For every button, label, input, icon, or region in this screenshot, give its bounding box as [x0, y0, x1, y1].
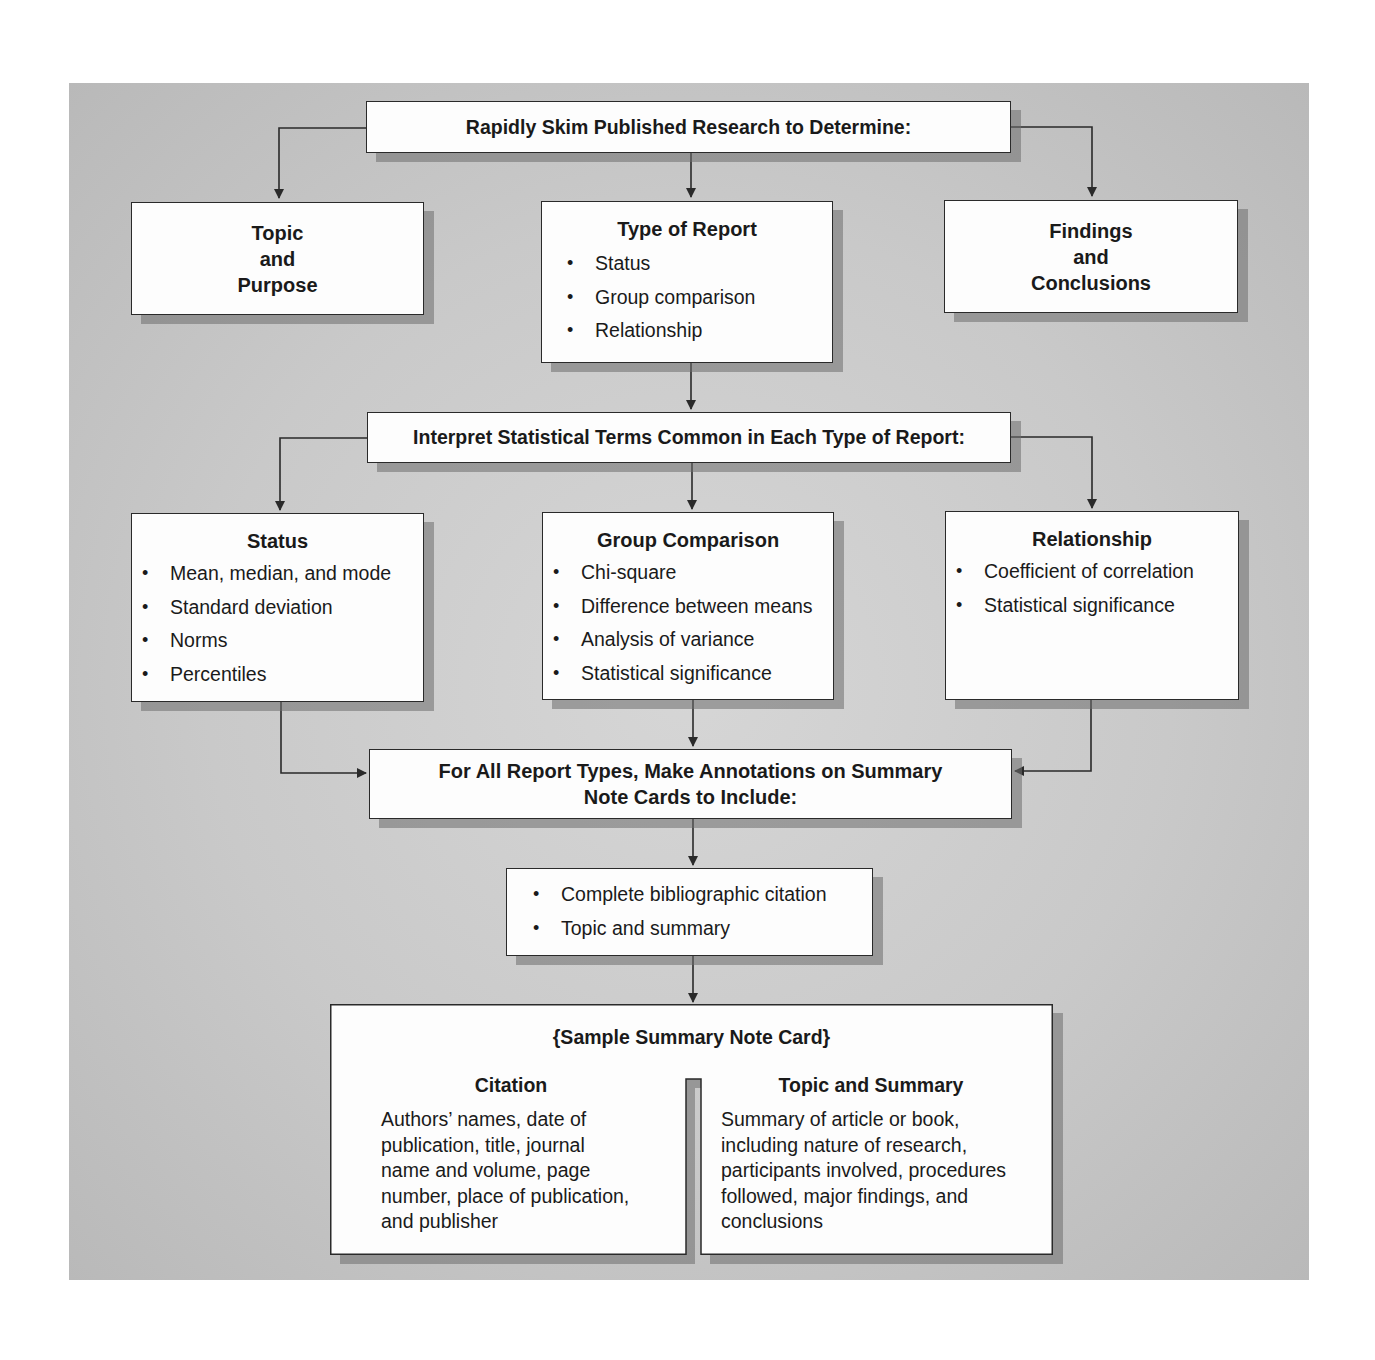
annotations-line-2: Note Cards to Include: — [584, 784, 797, 810]
list-item: Status — [557, 247, 832, 281]
skim-research-label: Rapidly Skim Published Research to Deter… — [466, 116, 911, 139]
list-item: Norms — [132, 624, 423, 658]
topic-purpose-line-1: Topic — [252, 220, 304, 246]
citation-line: number, place of publication, — [381, 1184, 629, 1210]
annotations-line-1: For All Report Types, Make Annotations o… — [439, 758, 943, 784]
topic-summary-line: participants involved, procedures — [721, 1158, 1006, 1184]
group-comparison-list: Chi-square Difference between means Anal… — [543, 556, 833, 690]
topic-summary-line: conclusions — [721, 1209, 1006, 1235]
status-list: Mean, median, and mode Standard deviatio… — [132, 557, 423, 691]
topic-purpose-line-3: Purpose — [237, 272, 317, 298]
topic-summary-heading: Topic and Summary — [701, 1074, 1041, 1097]
topic-summary-line: followed, major findings, and — [721, 1184, 1006, 1210]
type-of-report-title: Type of Report — [542, 216, 832, 242]
topic-summary-text: Summary of article or book, including na… — [721, 1107, 1006, 1235]
citation-heading: Citation — [330, 1074, 692, 1097]
include-list: Complete bibliographic citation Topic an… — [523, 878, 872, 945]
include-items-box: Complete bibliographic citation Topic an… — [506, 868, 873, 956]
type-of-report-list: Status Group comparison Relationship — [557, 247, 832, 348]
list-item: Difference between means — [543, 590, 833, 624]
list-item: Complete bibliographic citation — [523, 878, 872, 912]
citation-line: publication, title, journal — [381, 1133, 629, 1159]
list-item: Topic and summary — [523, 912, 872, 946]
topic-summary-line: including nature of research, — [721, 1133, 1006, 1159]
group-comparison-title: Group Comparison — [543, 527, 833, 553]
list-item: Statistical significance — [543, 657, 833, 691]
list-item: Statistical significance — [946, 589, 1238, 623]
citation-line: and publisher — [381, 1209, 629, 1235]
sample-note-card: {Sample Summary Note Card} Citation Auth… — [330, 1004, 1053, 1255]
topic-summary-line: Summary of article or book, — [721, 1107, 1006, 1133]
list-item: Relationship — [557, 314, 832, 348]
status-box: Status Mean, median, and mode Standard d… — [131, 513, 424, 702]
findings-line-3: Conclusions — [1031, 270, 1151, 296]
findings-conclusions-box: Findings and Conclusions — [944, 200, 1238, 313]
relationship-box: Relationship Coefficient of correlation … — [945, 511, 1239, 700]
findings-line-1: Findings — [1049, 218, 1132, 244]
annotations-box: For All Report Types, Make Annotations o… — [369, 749, 1012, 819]
list-item: Mean, median, and mode — [132, 557, 423, 591]
list-item: Chi-square — [543, 556, 833, 590]
relationship-title: Relationship — [946, 526, 1238, 552]
list-item: Coefficient of correlation — [946, 555, 1238, 589]
status-title: Status — [132, 528, 423, 554]
citation-text: Authors’ names, date of publication, tit… — [381, 1107, 629, 1235]
type-of-report-box: Type of Report Status Group comparison R… — [541, 201, 833, 363]
citation-line: name and volume, page — [381, 1158, 629, 1184]
group-comparison-box: Group Comparison Chi-square Difference b… — [542, 512, 834, 700]
relationship-list: Coefficient of correlation Statistical s… — [946, 555, 1238, 622]
list-item: Standard deviation — [132, 591, 423, 625]
list-item: Group comparison — [557, 281, 832, 315]
note-card-title: {Sample Summary Note Card} — [330, 1026, 1053, 1049]
citation-line: Authors’ names, date of — [381, 1107, 629, 1133]
list-item: Percentiles — [132, 658, 423, 692]
interpret-terms-box: Interpret Statistical Terms Common in Ea… — [367, 412, 1011, 463]
list-item: Analysis of variance — [543, 623, 833, 657]
findings-line-2: and — [1073, 244, 1109, 270]
topic-purpose-box: Topic and Purpose — [131, 202, 424, 315]
interpret-terms-label: Interpret Statistical Terms Common in Ea… — [413, 426, 965, 449]
topic-purpose-line-2: and — [260, 246, 296, 272]
skim-research-box: Rapidly Skim Published Research to Deter… — [366, 101, 1011, 153]
